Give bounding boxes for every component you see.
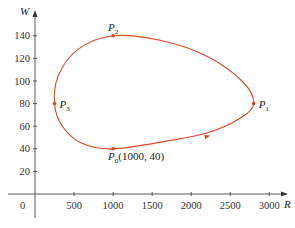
y-tick-label: 20	[20, 166, 31, 177]
trajectory-curve	[54, 35, 253, 148]
x-tick-label: 1500	[142, 200, 163, 211]
x-tick-label: 1000	[103, 200, 124, 211]
point-p0-label: P0(1000, 40)	[107, 150, 164, 165]
point-p2-label: P2	[107, 21, 119, 36]
chart-canvas: 50010001500200025003000 2040608010012014…	[0, 0, 295, 228]
origin-label: 0	[20, 200, 25, 211]
x-axis-label: R	[283, 198, 291, 210]
point-p1-label: P1	[258, 98, 270, 113]
y-tick-label: 120	[14, 53, 30, 64]
x-tick-label: 500	[66, 200, 82, 211]
y-axis-arrow-icon	[33, 10, 38, 17]
x-tick-label: 3000	[259, 200, 280, 211]
point-p3-label: P3	[59, 98, 71, 113]
y-axis-label: W	[20, 5, 30, 17]
y-tick-label: 140	[14, 30, 30, 41]
x-tick-label: 2500	[220, 200, 241, 211]
x-axis-arrow-icon	[281, 192, 288, 197]
y-ticks: 20406080100120140	[14, 30, 37, 177]
point-p1-marker	[252, 102, 256, 106]
direction-arrow-icon	[204, 135, 210, 139]
y-tick-label: 60	[20, 121, 31, 132]
point-markers: P0(1000, 40)P1P2P3	[53, 21, 270, 165]
phase-plot: 50010001500200025003000 2040608010012014…	[0, 0, 295, 228]
y-tick-label: 100	[14, 76, 30, 87]
point-p3-marker	[53, 102, 57, 106]
y-tick-label: 40	[20, 143, 31, 154]
x-tick-label: 2000	[181, 200, 202, 211]
y-tick-label: 80	[20, 98, 31, 109]
x-ticks: 50010001500200025003000	[66, 192, 280, 211]
